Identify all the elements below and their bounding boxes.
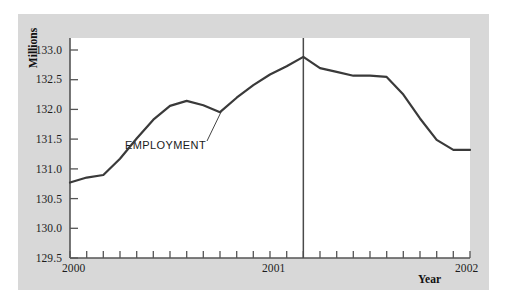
y-axis-ticks <box>70 50 78 258</box>
chart-svg <box>0 0 507 303</box>
series-line-employment <box>70 57 470 183</box>
x-axis-ticks <box>70 251 470 258</box>
annotation-leader-line <box>207 110 222 141</box>
chart-figure: Millions Year 133.0 132.5 132.0 131.5 13… <box>0 0 507 303</box>
